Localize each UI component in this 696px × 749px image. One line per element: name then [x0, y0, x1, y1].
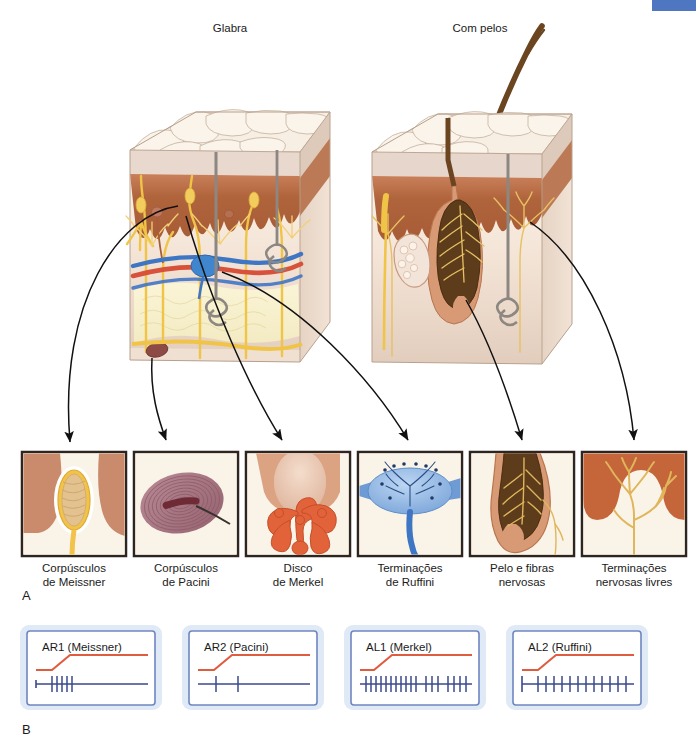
caption-ruffini-line2: de Ruffini [350, 576, 470, 590]
inset-hair-follicle [470, 452, 574, 556]
caption-ruffini-line1: Terminações [350, 562, 470, 576]
trace-label-ar2: AR2 (Pacini) [204, 641, 269, 653]
caption-free-line2: nervosas livres [574, 576, 694, 590]
caption-merkel-line1: Disco [238, 562, 358, 576]
caption-meissner-line2: de Meissner [14, 576, 134, 590]
caption-merkel-line2: de Merkel [238, 576, 358, 590]
panel-letter-b: B [22, 722, 31, 737]
figure-artwork [0, 0, 696, 749]
trace-label-ar1: AR1 (Meissner) [42, 641, 122, 653]
inset-ruffini [358, 452, 462, 562]
glabrous-skin-block [126, 110, 330, 362]
inset-merkel [246, 450, 350, 560]
caption-pacini-line1: Corpúsculos [126, 562, 246, 576]
caption-pacini: Corpúsculos de Pacini [126, 562, 246, 589]
caption-hair-line1: Pelo e fibras [462, 562, 582, 576]
trace-box-ar2 [182, 625, 324, 710]
figure-root: Glabra Com pelos [0, 0, 696, 749]
caption-ruffini: Terminações de Ruffini [350, 562, 470, 589]
trace-label-al2: AL2 (Ruffini) [528, 641, 592, 653]
arrow-to-pacini [152, 358, 166, 440]
caption-free-endings: Terminações nervosas livres [574, 562, 694, 589]
caption-free-line1: Terminações [574, 562, 694, 576]
trace-box-al1 [344, 625, 486, 710]
caption-meissner: Corpúsculos de Meissner [14, 562, 134, 589]
panel-letter-a: A [22, 588, 31, 603]
trace-box-al2 [506, 625, 648, 710]
caption-hair-follicle: Pelo e fibras nervosas [462, 562, 582, 589]
caption-hair-line2: nervosas [462, 576, 582, 590]
hairy-skin-block [372, 26, 572, 364]
inset-pacini [134, 452, 238, 556]
inset-free-endings [582, 452, 686, 556]
caption-meissner-line1: Corpúsculos [14, 562, 134, 576]
trace-box-ar1 [20, 625, 162, 710]
caption-merkel: Disco de Merkel [238, 562, 358, 589]
caption-pacini-line2: de Pacini [126, 576, 246, 590]
inset-meissner [22, 452, 126, 556]
trace-label-al1: AL1 (Merkel) [366, 641, 432, 653]
